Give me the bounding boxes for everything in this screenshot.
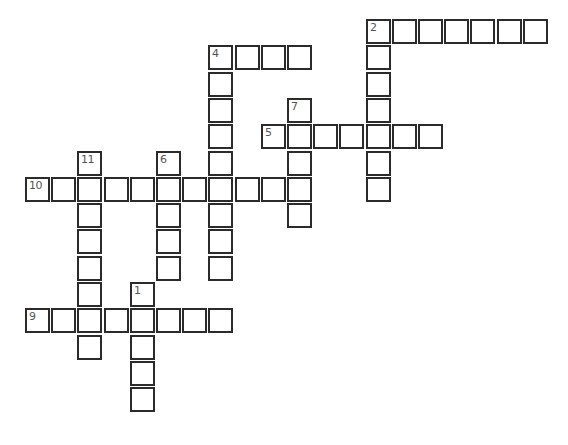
crossword-cell[interactable] (470, 19, 495, 44)
cell-input[interactable] (132, 284, 153, 305)
crossword-cell[interactable] (287, 177, 312, 202)
crossword-cell[interactable] (287, 151, 312, 176)
crossword-cell[interactable]: 4 (208, 45, 233, 70)
cell-input[interactable] (263, 47, 284, 68)
crossword-cell[interactable] (339, 124, 364, 149)
cell-input[interactable] (368, 126, 389, 147)
cell-input[interactable] (132, 310, 153, 331)
crossword-cell[interactable] (235, 45, 260, 70)
cell-input[interactable] (210, 153, 231, 174)
crossword-cell[interactable] (156, 229, 181, 254)
cell-input[interactable] (132, 363, 153, 384)
cell-input[interactable] (263, 126, 284, 147)
cell-input[interactable] (79, 205, 100, 226)
cell-input[interactable] (210, 310, 231, 331)
crossword-cell[interactable]: 5 (261, 124, 286, 149)
crossword-cell[interactable] (182, 308, 207, 333)
cell-input[interactable] (446, 21, 467, 42)
cell-input[interactable] (472, 21, 493, 42)
cell-input[interactable] (27, 310, 48, 331)
crossword-cell[interactable] (130, 387, 155, 412)
crossword-cell[interactable] (77, 282, 102, 307)
crossword-cell[interactable] (77, 308, 102, 333)
cell-input[interactable] (184, 310, 205, 331)
cell-input[interactable] (499, 21, 520, 42)
crossword-cell[interactable] (77, 256, 102, 281)
crossword-cell[interactable] (261, 177, 286, 202)
crossword-cell[interactable] (130, 361, 155, 386)
crossword-cell[interactable]: 1 (130, 282, 155, 307)
cell-input[interactable] (289, 47, 310, 68)
crossword-cell[interactable] (51, 177, 76, 202)
cell-input[interactable] (79, 310, 100, 331)
cell-input[interactable] (289, 153, 310, 174)
crossword-cell[interactable] (130, 308, 155, 333)
cell-input[interactable] (394, 21, 415, 42)
crossword-cell[interactable] (418, 19, 443, 44)
crossword-cell[interactable] (418, 124, 443, 149)
crossword-cell[interactable] (366, 45, 391, 70)
cell-input[interactable] (341, 126, 362, 147)
cell-input[interactable] (132, 337, 153, 358)
crossword-cell[interactable] (287, 124, 312, 149)
cell-input[interactable] (394, 126, 415, 147)
crossword-cell[interactable] (208, 124, 233, 149)
crossword-cell[interactable] (287, 45, 312, 70)
cell-input[interactable] (420, 21, 441, 42)
crossword-cell[interactable] (366, 72, 391, 97)
crossword-cell[interactable] (287, 203, 312, 228)
cell-input[interactable] (315, 126, 336, 147)
crossword-cell[interactable]: 11 (77, 151, 102, 176)
crossword-cell[interactable] (366, 124, 391, 149)
crossword-cell[interactable]: 9 (25, 308, 50, 333)
crossword-cell[interactable] (77, 229, 102, 254)
crossword-cell[interactable] (51, 308, 76, 333)
crossword-cell[interactable] (366, 98, 391, 123)
cell-input[interactable] (79, 231, 100, 252)
cell-input[interactable] (158, 179, 179, 200)
cell-input[interactable] (263, 179, 284, 200)
crossword-cell[interactable] (77, 203, 102, 228)
cell-input[interactable] (237, 179, 258, 200)
cell-input[interactable] (79, 153, 100, 174)
crossword-cell[interactable] (77, 335, 102, 360)
cell-input[interactable] (184, 179, 205, 200)
crossword-cell[interactable] (208, 256, 233, 281)
cell-input[interactable] (53, 310, 74, 331)
crossword-cell[interactable] (392, 124, 417, 149)
cell-input[interactable] (420, 126, 441, 147)
crossword-cell[interactable] (156, 177, 181, 202)
crossword-cell[interactable] (235, 177, 260, 202)
cell-input[interactable] (79, 179, 100, 200)
cell-input[interactable] (210, 205, 231, 226)
crossword-cell[interactable] (130, 335, 155, 360)
cell-input[interactable] (368, 179, 389, 200)
crossword-cell[interactable] (523, 19, 548, 44)
cell-input[interactable] (210, 179, 231, 200)
crossword-cell[interactable] (208, 72, 233, 97)
cell-input[interactable] (210, 258, 231, 279)
crossword-cell[interactable] (182, 177, 207, 202)
crossword-cell[interactable] (156, 203, 181, 228)
crossword-cell[interactable] (208, 308, 233, 333)
cell-input[interactable] (106, 179, 127, 200)
cell-input[interactable] (289, 126, 310, 147)
cell-input[interactable] (79, 284, 100, 305)
cell-input[interactable] (289, 100, 310, 121)
cell-input[interactable] (368, 47, 389, 68)
crossword-cell[interactable] (104, 177, 129, 202)
cell-input[interactable] (53, 179, 74, 200)
cell-input[interactable] (27, 179, 48, 200)
crossword-cell[interactable] (366, 151, 391, 176)
cell-input[interactable] (132, 389, 153, 410)
cell-input[interactable] (132, 179, 153, 200)
cell-input[interactable] (158, 153, 179, 174)
cell-input[interactable] (368, 21, 389, 42)
cell-input[interactable] (368, 100, 389, 121)
cell-input[interactable] (158, 258, 179, 279)
crossword-cell[interactable] (497, 19, 522, 44)
cell-input[interactable] (210, 100, 231, 121)
cell-input[interactable] (158, 205, 179, 226)
cell-input[interactable] (79, 258, 100, 279)
cell-input[interactable] (106, 310, 127, 331)
